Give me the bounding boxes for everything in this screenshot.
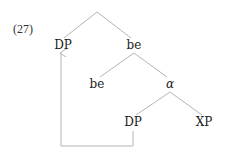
edge-be-be xyxy=(100,53,134,77)
node-dp-spec: DP xyxy=(54,38,72,52)
node-be-head: be xyxy=(90,77,105,91)
syntax-tree: (27) DP be be α DP XP xyxy=(0,0,228,157)
example-number: (27) xyxy=(13,22,33,36)
edge-alpha-dp xyxy=(136,92,170,115)
node-xp: XP xyxy=(196,115,213,129)
edge-be-alpha xyxy=(134,53,167,77)
node-dp-low: DP xyxy=(124,115,142,129)
node-be-bar: be xyxy=(127,38,142,52)
movement-arrow xyxy=(61,53,133,146)
edge-root-be xyxy=(97,12,131,38)
edge-alpha-xp xyxy=(170,92,202,115)
edge-root-dp xyxy=(64,12,97,38)
node-alpha: α xyxy=(166,77,174,91)
